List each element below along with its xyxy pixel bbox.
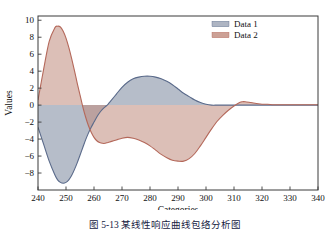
y-tick-label: −6 [24, 151, 34, 161]
line-area-chart: 2402502602702802903003103203303401086420… [0, 0, 330, 210]
y-axis-title: Values [4, 90, 14, 116]
x-tick-label: 260 [87, 193, 101, 203]
y-tick-label: 0 [30, 100, 35, 110]
legend-label-2: Data 2 [234, 30, 258, 40]
y-tick-label: −4 [24, 134, 34, 144]
x-tick-label: 340 [311, 193, 325, 203]
y-tick-label: 4 [30, 66, 35, 76]
y-tick-label: 8 [30, 32, 35, 42]
chart-area: 2402502602702802903003103203303401086420… [0, 0, 330, 210]
x-tick-label: 290 [171, 193, 185, 203]
x-tick-label: 280 [143, 193, 157, 203]
y-tick-label: −8 [24, 168, 34, 178]
x-tick-label: 240 [31, 193, 45, 203]
y-tick-label: −2 [24, 117, 34, 127]
y-tick-label: 6 [30, 49, 35, 59]
legend-swatch-2 [212, 32, 229, 38]
legend-swatch-1 [212, 21, 229, 27]
x-tick-label: 270 [115, 193, 129, 203]
y-tick-label: 10 [25, 15, 35, 25]
x-tick-label: 250 [59, 193, 73, 203]
y-tick-label: 2 [30, 83, 35, 93]
x-tick-label: 300 [199, 193, 213, 203]
x-tick-label: 320 [255, 193, 269, 203]
legend-label-1: Data 1 [234, 19, 258, 29]
x-axis-title: Categories [158, 205, 199, 210]
figure-container: 2402502602702802903003103203303401086420… [0, 0, 330, 235]
plot-series-group [38, 26, 318, 183]
figure-caption: 图 5-13 某线性响应曲线包络分析图 [0, 219, 330, 231]
x-tick-label: 330 [283, 193, 297, 203]
x-tick-label: 310 [227, 193, 241, 203]
